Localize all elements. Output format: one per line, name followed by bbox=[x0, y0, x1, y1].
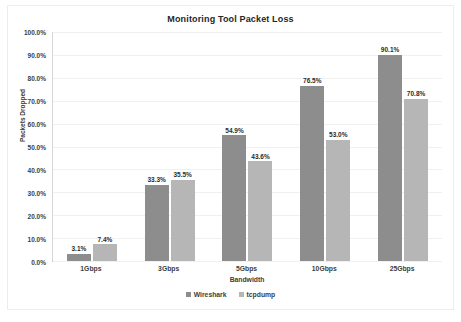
bar-value-label: 43.6% bbox=[251, 153, 269, 160]
x-axis-title: Bandwidth bbox=[52, 276, 442, 283]
bar-wireshark-5gbps[interactable]: 54.9% bbox=[222, 135, 246, 261]
legend-swatch-icon bbox=[239, 292, 244, 297]
bar-value-label: 54.9% bbox=[225, 127, 243, 134]
y-axis-tick-label: 70.0% bbox=[28, 98, 46, 105]
bar-group: 90.1%70.8% bbox=[364, 32, 442, 261]
y-axis-tick-label: 40.0% bbox=[28, 167, 46, 174]
bar-wireshark-25gbps[interactable]: 90.1% bbox=[378, 55, 402, 261]
bar-value-label: 33.3% bbox=[147, 176, 165, 183]
y-axis-tick-label: 10.0% bbox=[28, 236, 46, 243]
bar-value-label: 70.8% bbox=[407, 90, 425, 97]
y-axis-tick-label: 50.0% bbox=[28, 144, 46, 151]
bar-value-label: 7.4% bbox=[97, 236, 112, 243]
x-axis-tick-label: 25Gbps bbox=[390, 265, 415, 272]
bar-group: 33.3%35.5% bbox=[131, 32, 209, 261]
y-axis-title: Packets Dropped bbox=[19, 76, 26, 156]
bar-wireshark-3gbps[interactable]: 33.3% bbox=[145, 185, 169, 261]
bar-wireshark-1gbps[interactable]: 3.1% bbox=[67, 254, 91, 261]
x-axis-tick-label: 3Gbps bbox=[158, 265, 179, 272]
bar-tcpdump-3gbps[interactable]: 35.5% bbox=[171, 180, 195, 261]
bar-value-label: 3.1% bbox=[71, 245, 86, 252]
legend-swatch-icon bbox=[186, 292, 191, 297]
y-axis-tick-label: 20.0% bbox=[28, 213, 46, 220]
legend-label: tcpdump bbox=[247, 291, 276, 298]
bar-tcpdump-1gbps[interactable]: 7.4% bbox=[93, 244, 117, 261]
bar-tcpdump-5gbps[interactable]: 43.6% bbox=[248, 161, 272, 261]
bar-wireshark-10gbps[interactable]: 76.5% bbox=[300, 86, 324, 261]
chart-legend: Wiresharktcpdump bbox=[0, 291, 461, 298]
y-axis-tick-label: 80.0% bbox=[28, 75, 46, 82]
y-axis-tick-label: 0.0% bbox=[31, 259, 46, 266]
y-axis-tick-label: 60.0% bbox=[28, 121, 46, 128]
bar-value-label: 90.1% bbox=[381, 46, 399, 53]
y-axis-tick-label: 90.0% bbox=[28, 52, 46, 59]
bar-value-label: 53.0% bbox=[329, 131, 347, 138]
legend-item-wireshark[interactable]: Wireshark bbox=[186, 291, 227, 298]
bar-chart: Monitoring Tool Packet Loss 0.0%10.0%20.… bbox=[0, 0, 461, 322]
x-axis-tick-label: 1Gbps bbox=[80, 265, 101, 272]
bar-tcpdump-10gbps[interactable]: 53.0% bbox=[326, 140, 350, 261]
gridline bbox=[53, 261, 442, 262]
x-axis-tick-label: 10Gbps bbox=[312, 265, 337, 272]
chart-title: Monitoring Tool Packet Loss bbox=[0, 14, 461, 24]
legend-label: Wireshark bbox=[194, 291, 227, 298]
bar-group: 3.1%7.4% bbox=[53, 32, 131, 261]
bar-value-label: 76.5% bbox=[303, 77, 321, 84]
bar-group: 76.5%53.0% bbox=[286, 32, 364, 261]
y-axis-tick-label: 30.0% bbox=[28, 190, 46, 197]
y-axis-tick-label: 100.0% bbox=[24, 29, 46, 36]
plot-area: 3.1%7.4%33.3%35.5%54.9%43.6%76.5%53.0%90… bbox=[52, 32, 442, 262]
bar-tcpdump-25gbps[interactable]: 70.8% bbox=[404, 99, 428, 261]
x-axis-tick-label: 5Gbps bbox=[236, 265, 257, 272]
bar-value-label: 35.5% bbox=[173, 171, 191, 178]
legend-item-tcpdump[interactable]: tcpdump bbox=[239, 291, 276, 298]
bar-group: 54.9%43.6% bbox=[209, 32, 287, 261]
